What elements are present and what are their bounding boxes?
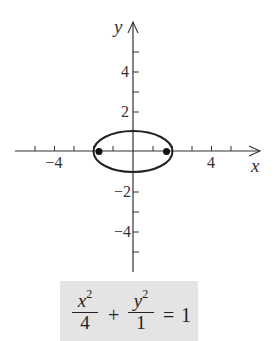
- fraction-y: y2 1: [128, 284, 154, 333]
- x-axis-label: x: [250, 155, 260, 176]
- y-tick-label-4: 4: [121, 63, 129, 80]
- x-tick-label-neg4: −4: [45, 154, 62, 171]
- focus-point-left: [96, 148, 103, 155]
- focus-point-right: [163, 148, 170, 155]
- equals-operator: =: [163, 304, 174, 327]
- y-tick-label-2: 2: [121, 103, 129, 120]
- denominator-y: 1: [128, 313, 154, 333]
- plus-operator: +: [108, 304, 119, 327]
- equation-box: x2 4 + y2 1 = 1: [60, 281, 198, 341]
- numerator-x: x: [78, 290, 86, 311]
- numerator-y: y: [134, 290, 142, 311]
- exponent-y: 2: [142, 287, 148, 301]
- y-axis-label: y: [112, 16, 123, 37]
- rhs-value: 1: [181, 304, 191, 327]
- x-tick-label-4: 4: [207, 154, 215, 171]
- y-tick-label-neg4: −4: [114, 223, 131, 240]
- y-tick-label-neg2: −2: [114, 183, 131, 200]
- denominator-x: 4: [72, 313, 98, 333]
- y-ticks: [133, 52, 139, 252]
- fraction-x: x2 4: [72, 284, 98, 333]
- exponent-x: 2: [86, 287, 92, 301]
